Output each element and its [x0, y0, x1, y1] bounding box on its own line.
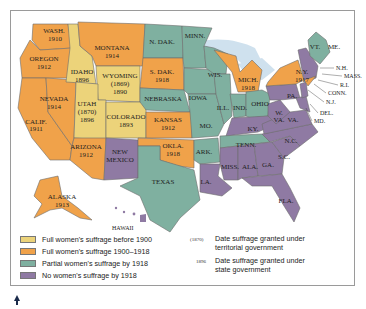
label-tenn: TENN.: [236, 141, 257, 149]
label-okla-year: 1918: [166, 150, 181, 158]
label-n-dak: N. DAK.: [149, 38, 175, 46]
label-utah: UTAH: [78, 100, 97, 108]
label-mich: MICH.: [238, 76, 258, 84]
label-ark: ARK.: [196, 148, 213, 156]
legend-label: Partial women's suffrage by 1918: [42, 259, 148, 268]
label-wis: WIS.: [208, 71, 223, 79]
note-line: state government: [215, 266, 305, 275]
hawaii-island: [133, 213, 136, 216]
label-wash: WASH.: [43, 27, 65, 35]
label-idaho: IDAHO: [71, 68, 94, 76]
label-miss: MISS.: [221, 163, 239, 171]
label-nh: N.H.: [336, 65, 348, 71]
label-wash-year: 1910: [48, 35, 63, 43]
swatch-orange: [20, 248, 36, 255]
label-fla: FLA.: [279, 197, 294, 205]
label-nevada-year: 1914: [47, 103, 62, 111]
label-wyoming-year: 1890: [113, 88, 128, 96]
label-ri: R.I.: [340, 82, 350, 88]
label-conn: CONN.: [328, 90, 347, 96]
legend-note-territorial: Date suffrage granted under territorial …: [215, 235, 305, 252]
label-utah-year: 1896: [80, 116, 95, 124]
hawaii-island: [123, 211, 125, 213]
label-nc: N.C.: [284, 137, 297, 145]
label-texas: TEXAS: [152, 178, 175, 186]
label-ala: ALA.: [242, 163, 258, 171]
label-vt: VT.: [310, 43, 321, 51]
label-wyoming: WYOMING: [102, 72, 137, 80]
label-la: LA.: [200, 178, 211, 186]
label-sc: S.C.: [278, 153, 290, 161]
label-colorado: COLORADO: [107, 113, 146, 121]
label-ga: GA.: [262, 161, 274, 169]
label-nj: N.J.: [326, 99, 336, 105]
label-hawaii: HAWAII: [112, 225, 134, 231]
swatch-yellow: [20, 236, 36, 243]
note-line: territorial government: [215, 244, 305, 253]
label-ind: IND.: [233, 104, 247, 112]
label-mich-year: 1918: [241, 84, 256, 92]
label-arizona-year: 1912: [79, 151, 94, 159]
label-pa: PA.: [287, 92, 297, 100]
label-okla: OKLA.: [162, 142, 183, 150]
label-iowa: IOWA: [189, 94, 207, 102]
label-ny-year: 1917: [295, 76, 310, 84]
legend-label: Full women's suffrage 1900–1918: [42, 247, 150, 256]
label-s-dak-year: 1918: [155, 76, 170, 84]
legend-key-state: 1896: [196, 259, 206, 264]
label-oregon: OREGON: [29, 55, 58, 63]
legend-note-state: Date suffrage granted under state govern…: [215, 257, 305, 274]
label-utah-territorial: (1870): [78, 108, 97, 116]
label-calif-year: 1911: [29, 125, 43, 133]
label-nebraska: NEBRASKA: [144, 95, 182, 103]
hawaii-island: [115, 207, 117, 209]
label-mass: MASS.: [344, 73, 362, 79]
hawaii-big-island: [140, 214, 146, 222]
state-md-del: [296, 96, 310, 112]
label-nevada: NEVADA: [40, 95, 69, 103]
legend-item-none: No women's suffrage by 1918: [20, 270, 137, 281]
label-montana-year: 1914: [105, 52, 120, 60]
label-idaho-year: 1896: [75, 76, 90, 84]
label-wyoming-territorial: (1869): [111, 80, 130, 88]
label-va: VA.: [288, 116, 299, 124]
label-ohio: OHIO: [251, 100, 269, 108]
label-alaska: ALASKA: [48, 193, 76, 201]
label-ky: KY.: [248, 125, 259, 133]
label-montana: MONTANA: [94, 44, 129, 52]
label-minn: MINN.: [185, 32, 206, 40]
label-kansas-year: 1912: [161, 124, 176, 132]
label-wva-2: VA.: [274, 116, 285, 124]
label-alaska-year: 1913: [55, 201, 70, 209]
legend-item-partial: Partial women's suffrage by 1918: [20, 258, 148, 269]
label-oregon-year: 1912: [37, 63, 52, 71]
legend-label: No women's suffrage by 1918: [42, 271, 137, 280]
label-s-dak: S. DAK.: [150, 68, 175, 76]
label-ill: ILL.: [217, 104, 230, 112]
legend-item-before-1900: Full women's suffrage before 1900: [20, 234, 152, 245]
label-del: DEL.: [320, 110, 334, 116]
label-md: MD.: [314, 118, 326, 124]
label-colorado-year: 1893: [119, 121, 134, 129]
label-ny: N.Y.: [296, 68, 309, 76]
legend-item-1900-1918: Full women's suffrage 1900–1918: [20, 246, 150, 257]
caption-arrow-stem: [16, 300, 18, 305]
label-me: ME.: [328, 43, 341, 51]
swatch-green: [20, 260, 36, 267]
label-mo: MO.: [199, 122, 212, 130]
swatch-purple: [20, 272, 36, 279]
legend: Full women's suffrage before 1900 Full w…: [20, 234, 350, 284]
label-arizona: ARIZONA: [70, 143, 102, 151]
label-kansas: KANSAS: [154, 116, 182, 124]
legend-key-territorial: (1870): [190, 237, 203, 242]
legend-label: Full women's suffrage before 1900: [42, 235, 152, 244]
